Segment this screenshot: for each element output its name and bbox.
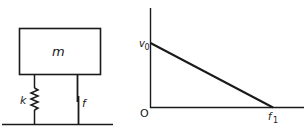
mass-label: m [52, 44, 65, 59]
friction-label: f [82, 97, 88, 110]
origin-label: O [140, 107, 149, 120]
chart-axes [150, 8, 304, 108]
svg-text:0: 0 [145, 43, 150, 52]
y-intercept-label: v 0 [139, 38, 150, 52]
spring-label: k [20, 94, 27, 107]
svg-text:1: 1 [273, 116, 278, 125]
friction-element-icon [78, 75, 79, 124]
x-intercept-label: f 1 [268, 111, 278, 125]
chart-series-line [151, 43, 274, 108]
spring-icon [31, 75, 38, 124]
diagram-canvas: m k f O v 0 f 1 [0, 0, 304, 134]
